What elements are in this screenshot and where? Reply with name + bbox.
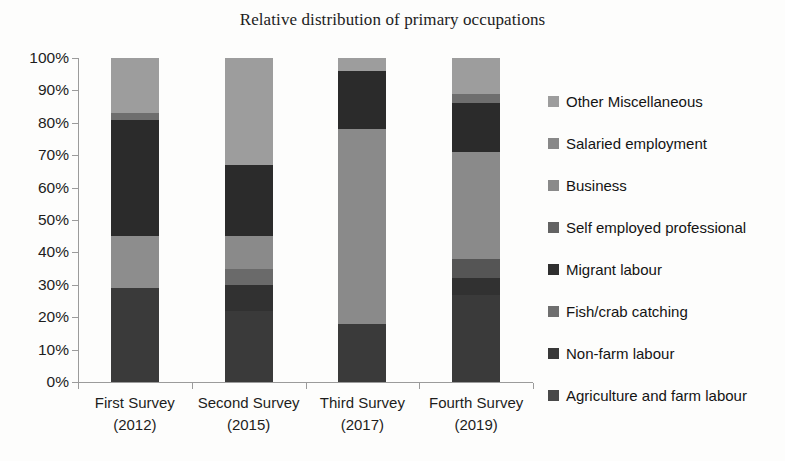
bar-column[interactable]	[452, 58, 500, 382]
x-axis-label: Second Survey(2015)	[190, 392, 308, 436]
bar-segment[interactable]	[452, 58, 500, 94]
x-axis-label-year: (2015)	[190, 414, 308, 436]
bar-segment[interactable]	[111, 236, 159, 288]
legend-item-label: Salaried employment	[566, 135, 707, 152]
y-tick-mark	[72, 123, 78, 124]
legend-item[interactable]: Salaried employment	[548, 122, 783, 164]
bar-segment[interactable]	[452, 152, 500, 259]
x-axis-label-year: (2019)	[417, 414, 535, 436]
legend-swatch-icon	[548, 264, 559, 275]
x-axis-label: Fourth Survey(2019)	[417, 392, 535, 436]
y-tick-label: 10%	[38, 341, 69, 359]
y-tick-label: 80%	[38, 114, 69, 132]
chart-title: Relative distribution of primary occupat…	[0, 10, 785, 30]
bar-segment[interactable]	[111, 58, 159, 113]
y-tick-mark	[72, 252, 78, 253]
bar-segment[interactable]	[338, 71, 386, 129]
legend-item[interactable]: Fish/crab catching	[548, 290, 783, 332]
bar-stack	[111, 58, 159, 382]
bar-segment[interactable]	[338, 58, 386, 71]
y-tick-mark	[72, 58, 78, 59]
bar-segment[interactable]	[452, 278, 500, 294]
y-tick-label: 100%	[29, 49, 69, 67]
bar-segment[interactable]	[338, 324, 386, 382]
y-tick-label: 50%	[38, 211, 69, 229]
legend-swatch-icon	[548, 222, 559, 233]
x-tick-mark	[78, 383, 79, 389]
bar-segment[interactable]	[452, 295, 500, 382]
x-tick-mark	[306, 383, 307, 389]
legend-swatch-icon	[548, 306, 559, 317]
bar-column[interactable]	[111, 58, 159, 382]
bar-segment[interactable]	[225, 58, 273, 165]
y-tick-label: 30%	[38, 276, 69, 294]
x-axis-label-name: Fourth Survey	[429, 394, 523, 411]
bar-column[interactable]	[225, 58, 273, 382]
y-tick-label: 90%	[38, 81, 69, 99]
bar-segment[interactable]	[225, 165, 273, 236]
bar-segment[interactable]	[225, 269, 273, 285]
y-tick-mark	[72, 188, 78, 189]
bar-segment[interactable]	[225, 285, 273, 311]
x-axis-label: Third Survey(2017)	[303, 392, 421, 436]
legend-item-label: Self employed professional	[566, 219, 746, 236]
x-axis-label: First Survey(2012)	[76, 392, 194, 436]
legend-item-label: Business	[566, 177, 627, 194]
legend-item-label: Migrant labour	[566, 261, 662, 278]
legend-item-label: Non-farm labour	[566, 345, 674, 362]
legend-item[interactable]: Agriculture and farm labour	[548, 374, 783, 416]
bar-segment[interactable]	[225, 311, 273, 382]
y-tick-mark	[72, 155, 78, 156]
x-axis-label-year: (2017)	[303, 414, 421, 436]
legend-item[interactable]: Migrant labour	[548, 248, 783, 290]
bar-stack	[338, 58, 386, 382]
legend-swatch-icon	[548, 348, 559, 359]
bar-segment[interactable]	[452, 103, 500, 152]
legend-swatch-icon	[548, 390, 559, 401]
x-axis-label-name: Second Survey	[198, 394, 300, 411]
y-axis-line	[78, 58, 79, 383]
y-tick-label: 40%	[38, 243, 69, 261]
x-tick-mark	[192, 383, 193, 389]
bar-segment[interactable]	[338, 129, 386, 323]
y-tick-label: 60%	[38, 179, 69, 197]
legend-swatch-icon	[548, 96, 559, 107]
y-tick-mark	[72, 220, 78, 221]
y-tick-label: 20%	[38, 308, 69, 326]
bar-segment[interactable]	[452, 259, 500, 278]
bar-segment[interactable]	[225, 236, 273, 268]
chart-container: Relative distribution of primary occupat…	[0, 0, 785, 461]
x-tick-mark	[419, 383, 420, 389]
x-tick-mark	[533, 383, 534, 389]
bar-segment[interactable]	[111, 288, 159, 382]
y-tick-label: 70%	[38, 146, 69, 164]
legend-swatch-icon	[548, 180, 559, 191]
bar-segment[interactable]	[452, 94, 500, 104]
x-axis-label-name: Third Survey	[320, 394, 405, 411]
y-tick-mark	[72, 350, 78, 351]
legend-item-label: Other Miscellaneous	[566, 93, 703, 110]
bar-stack	[452, 58, 500, 382]
legend-item-label: Agriculture and farm labour	[566, 387, 747, 404]
legend-item-label: Fish/crab catching	[566, 303, 688, 320]
legend-item[interactable]: Other Miscellaneous	[548, 80, 783, 122]
bar-stack	[225, 58, 273, 382]
legend-item[interactable]: Non-farm labour	[548, 332, 783, 374]
x-axis-label-name: First Survey	[95, 394, 175, 411]
bar-segment[interactable]	[111, 113, 159, 119]
plot-area: 100%90%80%70%60%50%40%30%20%10%0%	[78, 58, 533, 383]
y-tick-label: 0%	[47, 373, 69, 391]
chart-legend: Other MiscellaneousSalaried employmentBu…	[548, 80, 783, 416]
legend-item[interactable]: Self employed professional	[548, 206, 783, 248]
y-tick-mark	[72, 285, 78, 286]
bar-segment[interactable]	[111, 120, 159, 237]
bar-column[interactable]	[338, 58, 386, 382]
y-tick-mark	[72, 317, 78, 318]
legend-item[interactable]: Business	[548, 164, 783, 206]
x-axis-label-year: (2012)	[76, 414, 194, 436]
y-tick-mark	[72, 90, 78, 91]
legend-swatch-icon	[548, 138, 559, 149]
